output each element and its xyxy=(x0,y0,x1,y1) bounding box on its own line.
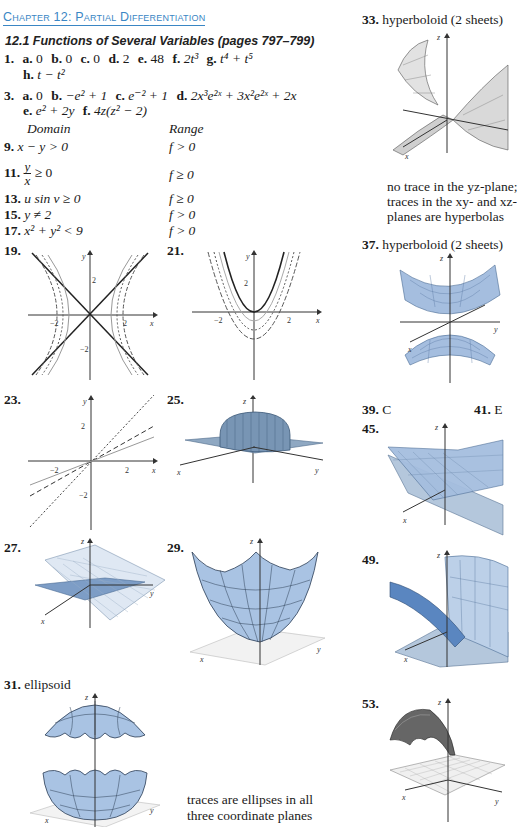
answer-number: 39. xyxy=(362,402,379,417)
figure-number: 45. xyxy=(362,421,379,437)
figure-31-ellipsoid: z x y xyxy=(25,695,160,827)
answer-number: 13. xyxy=(4,191,21,207)
svg-text:z: z xyxy=(84,693,89,702)
caption-text: ellipsoid xyxy=(24,677,71,692)
part-value: 2t³ xyxy=(184,51,199,66)
part-value: e² + 2y xyxy=(36,103,75,118)
answer-39: 39. C xyxy=(362,402,391,418)
svg-text:x: x xyxy=(44,816,49,825)
part-label: d. xyxy=(176,88,187,103)
svg-text:y: y xyxy=(245,252,250,261)
svg-text:y: y xyxy=(82,397,87,406)
domain-value: x − y > 0 xyxy=(18,139,68,154)
figure-number: 21. xyxy=(167,243,184,259)
answer-3: 3. a. 0 b. −e² + 1 c. e⁻² + 1 d. 2x³e²ˣ … xyxy=(4,87,296,104)
part-label: e. xyxy=(23,103,32,118)
svg-text:−2: −2 xyxy=(79,491,88,500)
figure-number: 37. xyxy=(362,237,379,252)
figure-33-hyperboloid: z x xyxy=(393,35,508,153)
part-value: 0 xyxy=(65,51,72,66)
answer-number: 15. xyxy=(4,207,21,223)
svg-text:x: x xyxy=(151,466,156,475)
part-label: d. xyxy=(108,51,119,66)
part-label: c. xyxy=(81,51,90,66)
svg-text:−2: −2 xyxy=(214,316,223,325)
svg-text:−2: −2 xyxy=(80,345,89,354)
svg-text:x: x xyxy=(176,468,181,477)
answer-number: 1. xyxy=(4,51,14,67)
svg-text:y: y xyxy=(149,589,154,598)
svg-text:x: x xyxy=(404,152,409,161)
range-header: Range xyxy=(169,121,204,137)
domain-header: Domain xyxy=(27,121,71,137)
answer-number: 9. xyxy=(4,139,14,155)
figure-37-hyperboloid: z y x xyxy=(400,255,500,385)
answer-value: E xyxy=(494,402,502,417)
svg-text:2: 2 xyxy=(287,316,291,325)
figure-number: 19. xyxy=(4,243,21,259)
figure-33-note: no trace in the yz-plane; traces in the … xyxy=(387,179,517,224)
svg-text:2: 2 xyxy=(81,422,85,431)
svg-text:z: z xyxy=(249,537,254,546)
figure-37-caption: 37. hyperboloid (2 sheets) xyxy=(362,237,503,253)
part-value: t − t² xyxy=(37,67,64,82)
domain-range-row: 13. u sin v ≥ 0 xyxy=(4,191,80,207)
domain-range-row: 9. x − y > 0 xyxy=(4,139,68,155)
figure-number: 31. xyxy=(4,677,21,692)
answer-1: 1. a. 0 b. 0 c. 0 d. 2 e. 48 f. 2t³ g. t… xyxy=(4,51,253,67)
domain-value: y ≠ 2 xyxy=(24,207,51,222)
part-value: 2x³e²ˣ + 3x²e²ˣ + 2x xyxy=(191,88,297,103)
part-value: 48 xyxy=(151,51,165,66)
caption-text: hyperboloid (2 sheets) xyxy=(382,12,503,27)
answer-number: 3. xyxy=(4,88,14,104)
answer-number: 41. xyxy=(474,402,491,417)
answer-1-h: h. t − t² xyxy=(23,67,65,83)
svg-text:y: y xyxy=(314,466,319,475)
svg-text:x: x xyxy=(149,319,154,328)
part-label: a. xyxy=(23,51,33,66)
figure-53-surface: z x y xyxy=(390,700,505,822)
figure-31-caption: 31. ellipsoid xyxy=(4,677,71,693)
answer-3-cont: e. e² + 2y f. 4z(z² − 2) xyxy=(23,103,147,119)
part-value: 0 xyxy=(93,51,100,66)
svg-text:x: x xyxy=(315,316,320,325)
figure-number: 27. xyxy=(4,540,21,556)
numerator: y xyxy=(24,160,32,174)
part-value: −e² + 1 xyxy=(65,88,107,103)
svg-text:x: x xyxy=(402,516,407,525)
part-label: f. xyxy=(172,51,180,66)
svg-text:y: y xyxy=(81,252,86,261)
svg-text:y: y xyxy=(493,325,498,334)
range-value: f > 0 xyxy=(169,139,195,155)
range-value: f ≥ 0 xyxy=(169,191,194,207)
figure-number: 33. xyxy=(362,12,379,27)
svg-text:z: z xyxy=(439,254,444,263)
chapter-title: Chapter 12: Partial Differentiation xyxy=(3,10,205,26)
figure-33-caption: 33. hyperboloid (2 sheets) xyxy=(362,12,503,28)
range-value: f ≥ 0 xyxy=(169,167,194,183)
part-label: a. xyxy=(23,88,33,103)
svg-text:y: y xyxy=(149,806,154,815)
svg-text:z: z xyxy=(436,551,441,560)
domain-range-row: 15. y ≠ 2 xyxy=(4,207,51,223)
svg-text:2: 2 xyxy=(125,466,129,475)
part-value: e⁻² + 1 xyxy=(128,88,168,103)
note-line: planes are hyperbolas xyxy=(387,209,517,224)
part-label: b. xyxy=(51,51,62,66)
answer-value: C xyxy=(382,402,391,417)
range-value: f > 0 xyxy=(169,223,195,239)
part-value: 0 xyxy=(36,51,43,66)
svg-text:x: x xyxy=(40,617,45,626)
section-title: 12.1 Functions of Several Variables (pag… xyxy=(5,34,314,48)
domain-value: x² + y² < 9 xyxy=(24,223,83,238)
figure-number: 23. xyxy=(4,392,21,408)
domain-range-row: 17. x² + y² < 9 xyxy=(4,223,83,239)
svg-text:−2: −2 xyxy=(50,466,59,475)
figure-number: 53. xyxy=(362,696,379,712)
note-line: no trace in the yz-plane; xyxy=(387,179,517,194)
figure-49-surface: z x xyxy=(390,552,508,667)
domain-range-row: 11. yx ≥ 0 xyxy=(4,160,52,187)
figure-number: 29. xyxy=(167,540,184,556)
part-value: 4z(z² − 2) xyxy=(94,103,147,118)
svg-text:x: x xyxy=(199,655,204,664)
